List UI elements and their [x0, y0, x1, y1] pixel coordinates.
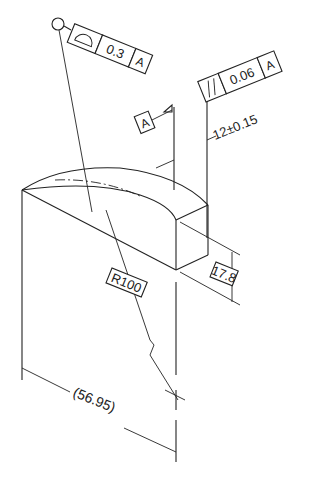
radius-dimension: R100	[109, 270, 143, 296]
length-dimension: (56.95)	[71, 384, 118, 415]
leader-origin-circle	[52, 18, 64, 30]
drawing-canvas: 0.3 A 0.06 A 12±0.15 A	[0, 0, 319, 483]
radius-dimension-box: R100	[106, 268, 147, 297]
width-dimension: 12±0.15	[211, 111, 260, 142]
height-dimension-box: 17.8	[209, 262, 238, 286]
datum-a-frame: A	[134, 111, 155, 133]
parallelism-feature-control-frame: 0.06 A	[198, 51, 282, 102]
profile-feature-control-frame: 0.3 A	[67, 24, 152, 74]
profile-leader	[59, 30, 92, 212]
